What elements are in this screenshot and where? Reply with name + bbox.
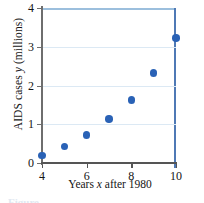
data-point <box>172 34 180 42</box>
y-tick-label: 0 <box>28 156 34 171</box>
y-tick-label: 3 <box>28 39 34 54</box>
plot-frame-top <box>42 8 176 10</box>
gridline-y <box>42 86 176 87</box>
gridline-y <box>42 47 176 48</box>
y-axis-line <box>41 6 43 165</box>
y-axis-title-post: (millions) <box>12 18 24 67</box>
plot-area: 01234 46810 <box>42 8 176 163</box>
figure-scatter-aids-cases: AIDS cases y (millions) 01234 46810 Year… <box>0 0 204 203</box>
plot-frame-right <box>174 8 176 168</box>
x-axis-title: Years x after 1980 <box>42 178 178 190</box>
figure-caption: Figure <box>8 196 39 203</box>
x-axis-title-post: after 1980 <box>102 178 152 190</box>
x-axis-title-pre: Years <box>68 178 97 190</box>
y-tick-label: 2 <box>28 78 34 93</box>
gridline-y <box>42 124 176 125</box>
x-axis-line <box>41 162 177 164</box>
data-point <box>38 152 46 160</box>
data-point <box>105 115 113 123</box>
y-tick-label: 1 <box>28 117 34 132</box>
y-tick-label: 4 <box>28 1 34 16</box>
y-axis-title-variable: y <box>12 67 24 72</box>
y-axis-title-pre: AIDS cases <box>12 72 24 130</box>
y-axis-title: AIDS cases y (millions) <box>12 0 24 154</box>
data-point <box>128 96 136 104</box>
